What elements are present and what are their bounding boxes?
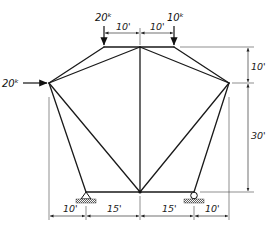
bottom-dim-label-1: 10' — [63, 203, 78, 214]
load-label-top-left: 20ᵏ — [95, 12, 112, 23]
left-diagonal — [49, 83, 140, 192]
top-dim-label-left: 10' — [116, 21, 131, 32]
center-joint — [138, 190, 141, 193]
bottom-dim-label-4: 10' — [205, 203, 220, 214]
load-label-left-node: 20ᵏ — [2, 78, 19, 89]
upper-right-outer — [174, 47, 229, 83]
right-leg — [194, 83, 229, 192]
left-support-pin-icon — [76, 192, 96, 203]
right-support-roller-icon — [184, 192, 204, 203]
bottom-dim-label-3: 15' — [162, 203, 177, 214]
truss-svg: 20ᵏ 10ᵏ 20ᵏ 10' 10' 10' 30' — [0, 0, 270, 225]
top-dim-label-right: 10' — [150, 21, 165, 32]
truss-diagram: 20ᵏ 10ᵏ 20ᵏ 10' 10' 10' 30' — [0, 0, 270, 225]
load-label-top-right: 10ᵏ — [167, 12, 184, 23]
left-leg — [49, 83, 86, 192]
right-dim-label-bottom: 30' — [251, 130, 266, 141]
upper-right-inner — [140, 47, 229, 83]
truss-members — [49, 47, 229, 194]
right-diagonal — [140, 83, 229, 192]
bottom-dim-label-2: 15' — [107, 203, 122, 214]
upper-left-inner — [49, 47, 140, 83]
right-dim-label-top: 10' — [251, 61, 266, 72]
